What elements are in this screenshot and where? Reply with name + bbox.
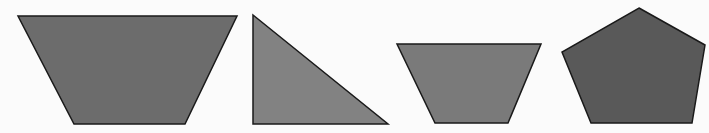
right-triangle-shape <box>253 15 388 124</box>
shapes-svg <box>0 0 709 133</box>
pentagon-shape <box>562 8 705 123</box>
shapes-canvas <box>0 0 709 133</box>
trapezoid-shape-large <box>18 16 237 124</box>
trapezoid-shape-small <box>397 44 541 123</box>
